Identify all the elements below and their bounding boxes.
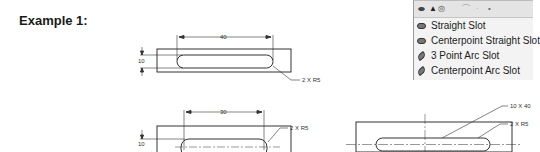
centerpoint-slot-icon[interactable]: ◎ (438, 5, 445, 13)
dim-height-2: 10 (138, 141, 145, 147)
drawing-1-straight-slot (140, 35, 300, 80)
drawing-3-slot-callout (346, 106, 521, 152)
cursor-icon: ▲ (429, 5, 437, 13)
drawing-2-centerpoint-slot (140, 110, 291, 152)
point-icon[interactable]: • (488, 5, 491, 13)
menu-item-centerpoint-straight-slot[interactable]: Centerpoint Straight Slot (414, 33, 533, 48)
slot-toolbar: ⬬ ▲ ◎ ⌒ · • (414, 1, 533, 18)
menu-item-label: Centerpoint Straight Slot (431, 35, 540, 46)
radius-note-2: 2 X R5 (290, 125, 309, 131)
centerpoint-straight-slot-icon (417, 38, 426, 44)
centerpoint-arc-slot-icon (416, 65, 427, 75)
three-point-arc-slot-icon (416, 50, 427, 60)
size-note-3: 10 X 40 (510, 103, 531, 109)
dash-icon: · (476, 5, 479, 13)
menu-item-label: Straight Slot (431, 20, 485, 31)
dim-width-2: 30 (220, 109, 227, 115)
slot-flyout-menu: ⬬ ▲ ◎ ⌒ · • Straight Slot Centerpoint St… (413, 0, 533, 80)
radius-note-1: 2 X R5 (302, 77, 321, 83)
straight-slot-icon (417, 23, 426, 29)
radius-note-3: 2 X R5 (510, 121, 529, 127)
dim-height-1: 10 (138, 58, 145, 64)
straight-slot-icon[interactable]: ⬬ (418, 5, 425, 13)
menu-item-3-point-arc-slot[interactable]: 3 Point Arc Slot (414, 48, 533, 63)
menu-item-label: Centerpoint Arc Slot (431, 65, 520, 76)
arc-icon[interactable]: ⌒ (462, 5, 470, 13)
menu-item-centerpoint-arc-slot[interactable]: Centerpoint Arc Slot (414, 63, 533, 78)
menu-item-label: 3 Point Arc Slot (431, 50, 499, 61)
menu-item-straight-slot[interactable]: Straight Slot (414, 18, 533, 33)
dim-width-1: 40 (220, 34, 227, 40)
